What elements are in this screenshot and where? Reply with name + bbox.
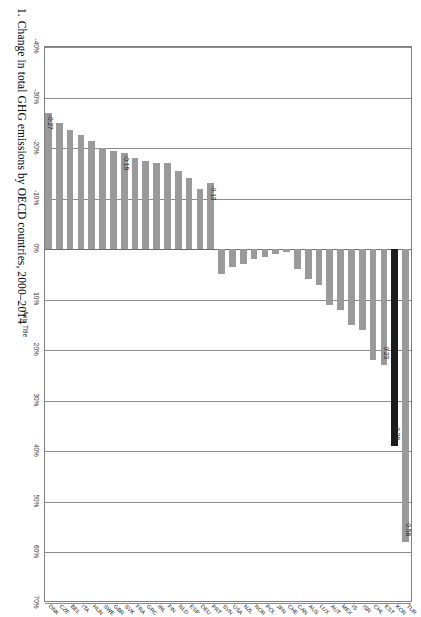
bar-lux [316, 249, 323, 284]
bar-tur [402, 249, 409, 542]
category-label-aut: AUT [329, 604, 341, 616]
category-label-est: EST [383, 604, 395, 616]
data-label-dnk: -0.27 [47, 115, 54, 130]
bar-irl [153, 163, 160, 249]
caption-number: 1. [16, 8, 28, 17]
value-tick-label: 40% [33, 444, 40, 457]
value-tick-label: 70% [33, 596, 40, 609]
value-tick-label: 20% [33, 343, 40, 356]
bar-esp [186, 178, 193, 249]
category-label-svk: SVK [123, 604, 135, 616]
bar-dnk [45, 113, 52, 249]
bar-row [88, 47, 95, 601]
bar-grc [142, 161, 149, 249]
data-label-prt: -0.13 [209, 185, 216, 200]
plot-area [44, 46, 412, 602]
bar-che [283, 249, 290, 252]
category-label-pol: POL [264, 604, 276, 616]
category-label-kor: KOR [394, 604, 407, 617]
bar-row [197, 47, 204, 601]
bar-row [391, 47, 398, 601]
bar-nor [251, 249, 258, 259]
value-tick-label: 50% [33, 495, 40, 508]
bar-row [121, 47, 128, 601]
caption-text: Change in total GHG emissions by OECD co… [16, 21, 28, 324]
bar-row [305, 47, 312, 601]
bar-row [110, 47, 117, 601]
bar-ita [78, 135, 85, 249]
bar-svn [218, 249, 225, 274]
bar-is [348, 249, 355, 325]
bar-row [240, 47, 247, 601]
category-label-fin: FIN [167, 604, 177, 614]
category-label-nor: NOR [253, 604, 266, 617]
data-label-kor: 0.39 [393, 427, 400, 440]
bar-row [262, 47, 269, 601]
bar-usa [229, 249, 236, 267]
bar-mex [337, 249, 344, 310]
bar-row [175, 47, 182, 601]
bar-row [283, 47, 290, 601]
bar-row [164, 47, 171, 601]
value-tick-label: -30% [33, 89, 40, 104]
bar-row [218, 47, 225, 601]
bar-aut [326, 249, 333, 305]
bar-series [45, 47, 411, 601]
category-label-esp: ESP [188, 604, 200, 616]
bar-row [132, 47, 139, 601]
bar-row [272, 47, 279, 601]
figure-caption: 1.Change in total GHG emissions by OECD … [16, 8, 28, 608]
bar-row [142, 47, 149, 601]
category-label-nld: NLD [178, 604, 190, 616]
bar-jpn [272, 249, 279, 254]
bar-chl [370, 249, 377, 360]
category-label-jpn: JPN [275, 604, 286, 615]
data-label-tur: 0.58 [404, 523, 411, 536]
bar-aus [305, 249, 312, 279]
bar-can [294, 249, 301, 269]
bar-row [229, 47, 236, 601]
category-label-isr: ISR [362, 604, 373, 615]
bar-swe [99, 148, 106, 249]
bar-row [359, 47, 366, 601]
value-tick-label: -40% [33, 39, 40, 54]
bar-row [337, 47, 344, 601]
bar-row [56, 47, 63, 601]
bar-isr [359, 249, 366, 330]
bar-row [381, 47, 388, 601]
bar-gbr [110, 151, 117, 250]
bar-row [99, 47, 106, 601]
bar-row [348, 47, 355, 601]
category-label-nzl: NZL [242, 604, 253, 615]
bar-kor [391, 249, 398, 446]
value-tick-label: -20% [33, 140, 40, 155]
bar-fin [164, 163, 171, 249]
value-tick-label: 0% [33, 244, 40, 253]
bar-row [207, 47, 214, 601]
bar-row [326, 47, 333, 601]
category-label-fra: FRA [134, 604, 146, 616]
bar-row [67, 47, 74, 601]
bar-fra [132, 158, 139, 249]
bar-row [294, 47, 301, 601]
bar-row [370, 47, 377, 601]
bar-bel [67, 130, 74, 249]
bar-row [153, 47, 160, 601]
bar-row [78, 47, 85, 601]
category-label-ita: ITA [80, 604, 90, 614]
value-tick-label: -10% [33, 190, 40, 205]
bar-deu [197, 189, 204, 250]
category-label-aus: AUS [307, 604, 319, 616]
bar-hun [88, 141, 95, 250]
category-label-dnk: DNK [48, 604, 60, 616]
data-label-est: 0.23 [382, 346, 389, 359]
bar-nzl [240, 249, 247, 264]
bar-nld [175, 171, 182, 249]
category-label-bel: BEL [69, 604, 80, 615]
category-label-chl: CHL [372, 604, 384, 616]
category-label-deu: DEU [199, 604, 211, 616]
chart-figure: -40%-30%-20%-10%0%10%20%30%40%50%60%70% … [0, 0, 421, 617]
category-label-cze: CZE [58, 604, 70, 616]
category-label-prt: PRT [210, 604, 222, 616]
value-tick-label: 60% [33, 545, 40, 558]
